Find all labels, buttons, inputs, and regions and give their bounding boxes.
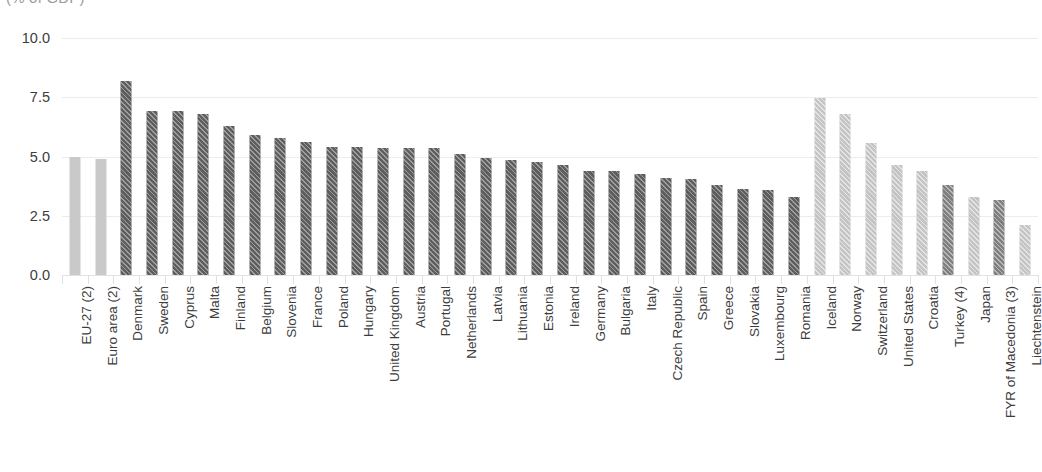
bar-slot — [576, 38, 602, 275]
bar-slot — [190, 38, 216, 275]
bar[interactable] — [352, 147, 363, 275]
x-tick — [576, 275, 577, 284]
bar[interactable] — [275, 138, 286, 275]
x-axis-label: Poland — [337, 286, 351, 328]
bar-slot — [139, 38, 165, 275]
bar[interactable] — [557, 165, 568, 275]
bar-slot — [781, 38, 807, 275]
x-tick — [653, 275, 654, 284]
bar-slot — [524, 38, 550, 275]
bar-slot — [473, 38, 499, 275]
bar[interactable] — [300, 142, 311, 275]
bar[interactable] — [583, 171, 594, 275]
x-tick — [396, 275, 397, 284]
x-tick — [781, 275, 782, 284]
bar[interactable] — [506, 160, 517, 275]
x-tick — [961, 275, 962, 284]
x-axis-label: Czech Republic — [671, 286, 685, 381]
bar[interactable] — [121, 81, 132, 275]
x-axis-label: Estonia — [542, 286, 556, 331]
x-tick — [987, 275, 988, 284]
y-tick-label: 0.0 — [30, 267, 50, 283]
bar-slot — [267, 38, 293, 275]
x-tick — [319, 275, 320, 284]
x-axis-label: United States — [902, 286, 916, 367]
x-axis-label: Austria — [414, 286, 428, 328]
bar-slot — [1012, 38, 1038, 275]
bar[interactable] — [686, 179, 697, 275]
y-tick-label: 10.0 — [22, 30, 50, 46]
x-axis-label: Ireland — [568, 286, 582, 327]
bar[interactable] — [69, 157, 80, 276]
bar[interactable] — [95, 159, 106, 275]
x-axis-label: Netherlands — [465, 286, 479, 359]
x-axis-label: Spain — [696, 286, 710, 321]
x-axis-label: Slovenia — [285, 286, 299, 338]
bar[interactable] — [814, 98, 825, 275]
bar[interactable] — [455, 154, 466, 275]
x-tick — [62, 275, 63, 284]
x-tick — [627, 275, 628, 284]
bar[interactable] — [403, 148, 414, 275]
bar[interactable] — [378, 148, 389, 275]
x-axis-label: Portugal — [439, 286, 453, 336]
x-axis-label: Lithuania — [516, 286, 530, 341]
bars-layer — [62, 38, 1038, 275]
bar[interactable] — [198, 114, 209, 275]
bar[interactable] — [532, 162, 543, 275]
x-axis-label: Latvia — [491, 286, 505, 322]
bar[interactable] — [840, 114, 851, 275]
bar-slot — [113, 38, 139, 275]
bar-slot — [910, 38, 936, 275]
x-axis-label: Greece — [722, 286, 736, 330]
x-tick — [524, 275, 525, 284]
x-axis-label: EU-27 (2) — [80, 286, 94, 345]
x-tick — [447, 275, 448, 284]
x-tick — [807, 275, 808, 284]
bar[interactable] — [917, 171, 928, 275]
bar[interactable] — [223, 126, 234, 275]
bar[interactable] — [172, 111, 183, 275]
x-tick — [190, 275, 191, 284]
x-axis-label: Bulgaria — [619, 286, 633, 336]
bar[interactable] — [146, 111, 157, 275]
x-tick — [910, 275, 911, 284]
bar[interactable] — [1020, 225, 1031, 275]
x-tick — [601, 275, 602, 284]
bar[interactable] — [891, 165, 902, 275]
x-axis-labels: EU-27 (2)Euro area (2)DenmarkSwedenCypru… — [62, 286, 1038, 466]
bar[interactable] — [994, 200, 1005, 275]
x-tick — [678, 275, 679, 284]
x-tick — [345, 275, 346, 284]
x-axis-label: Luxembourg — [773, 286, 787, 361]
bar[interactable] — [866, 143, 877, 275]
x-axis-label: United Kingdom — [388, 286, 402, 382]
x-axis-label: Finland — [234, 286, 248, 330]
bar[interactable] — [249, 135, 260, 275]
x-tick — [88, 275, 89, 284]
bar-slot — [833, 38, 859, 275]
bar[interactable] — [429, 148, 440, 275]
bar[interactable] — [943, 185, 954, 275]
bar[interactable] — [737, 189, 748, 276]
bar[interactable] — [480, 158, 491, 275]
x-tick — [833, 275, 834, 284]
bar-slot — [370, 38, 396, 275]
bar[interactable] — [788, 197, 799, 275]
bar[interactable] — [968, 197, 979, 275]
bar[interactable] — [634, 174, 645, 275]
y-axis: 10.07.55.02.50.0 — [0, 38, 58, 275]
bar-slot — [345, 38, 371, 275]
x-axis-label: Norway — [850, 286, 864, 332]
bar[interactable] — [326, 147, 337, 275]
x-tick — [422, 275, 423, 284]
x-axis-label: Belgium — [260, 286, 274, 335]
bar[interactable] — [609, 171, 620, 275]
bar[interactable] — [660, 178, 671, 275]
x-axis-label: Turkey (4) — [953, 286, 967, 347]
bar[interactable] — [763, 190, 774, 275]
bar-slot — [704, 38, 730, 275]
bar[interactable] — [711, 185, 722, 275]
x-axis-label: Italy — [645, 286, 659, 311]
bar-slot — [242, 38, 268, 275]
